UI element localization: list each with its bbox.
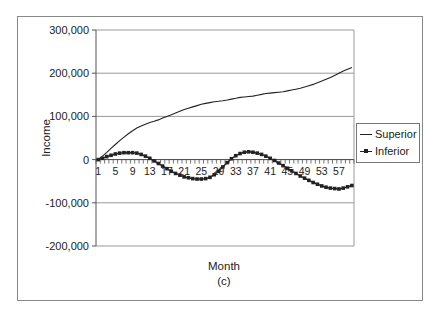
data-point-marker	[204, 177, 208, 181]
gridlines	[96, 30, 354, 246]
data-point-marker	[311, 181, 315, 185]
y-axis-title: Income	[40, 119, 52, 157]
data-point-marker	[273, 159, 277, 163]
legend-item-inferior: Inferior	[360, 143, 409, 159]
data-point-marker	[191, 177, 195, 181]
data-point-marker	[114, 152, 118, 156]
data-point-marker	[234, 154, 238, 158]
data-point-marker	[187, 176, 191, 180]
series-superior	[98, 68, 352, 160]
legend-item-superior: Superior	[360, 126, 417, 142]
legend-label: Superior	[375, 128, 417, 140]
data-point-marker	[152, 159, 156, 163]
data-point-marker	[122, 151, 126, 155]
data-point-marker	[290, 169, 294, 173]
data-point-marker	[208, 176, 212, 180]
axes	[92, 30, 354, 246]
inferior-square-marker-swatch-icon	[360, 151, 372, 152]
data-point-marker	[200, 177, 204, 181]
data-point-marker	[268, 157, 272, 161]
data-point-marker	[139, 153, 143, 157]
data-point-marker	[221, 165, 225, 169]
data-point-marker	[182, 175, 186, 179]
data-point-marker	[329, 186, 333, 190]
x-tick-label: 1	[95, 165, 101, 177]
data-point-marker	[212, 173, 216, 177]
data-point-marker	[148, 157, 152, 161]
data-point-marker	[238, 152, 242, 156]
data-point-marker	[341, 186, 345, 190]
data-point-marker	[105, 155, 109, 159]
y-tick-label: 200,000	[49, 67, 89, 79]
data-point-marker	[294, 172, 298, 176]
data-point-marker	[298, 174, 302, 178]
data-point-marker	[118, 151, 122, 155]
data-point-marker	[281, 164, 285, 168]
data-point-marker	[264, 154, 268, 158]
data-point-marker	[135, 151, 139, 155]
legend: Superior Inferior	[356, 123, 420, 163]
data-point-marker	[350, 184, 354, 188]
y-tick-label: 0	[83, 154, 89, 166]
data-point-marker	[131, 151, 135, 155]
data-point-marker	[217, 169, 221, 173]
chart-caption: (c)	[217, 275, 231, 287]
x-tick-label: 37	[247, 165, 259, 177]
data-point-marker	[230, 157, 234, 161]
data-point-marker	[165, 167, 169, 171]
x-tick-label: 9	[130, 165, 136, 177]
data-point-marker	[243, 150, 247, 154]
data-point-marker	[307, 179, 311, 183]
data-point-marker	[337, 187, 341, 191]
y-tick-label: -100,000	[46, 197, 89, 209]
data-point-marker	[109, 153, 113, 157]
x-tick-label: 25	[196, 165, 208, 177]
data-point-marker	[247, 150, 251, 154]
x-tick-label: 5	[112, 165, 118, 177]
data-point-marker	[260, 153, 264, 157]
x-tick-label: 13	[144, 165, 156, 177]
x-tick-label: 57	[333, 165, 345, 177]
data-point-marker	[174, 172, 178, 176]
y-tick-label: 300,000	[49, 24, 89, 36]
data-point-marker	[346, 185, 350, 189]
data-point-marker	[101, 157, 105, 161]
data-point-marker	[320, 184, 324, 188]
data-point-marker	[255, 151, 259, 155]
data-point-marker	[169, 169, 173, 173]
y-tick-label: -200,000	[46, 240, 89, 252]
data-point-marker	[303, 176, 307, 180]
data-point-marker	[195, 177, 199, 181]
legend-label: Inferior	[375, 145, 409, 157]
data-point-marker	[251, 150, 255, 154]
data-point-marker	[161, 164, 165, 168]
x-tick-label: 53	[316, 165, 328, 177]
superior-line-swatch-icon	[360, 134, 372, 135]
data-point-marker	[316, 182, 320, 186]
data-point-marker	[286, 166, 290, 170]
data-point-marker	[157, 162, 161, 166]
y-tick-labels: 300,000200,000100,0000-100,000-200,000	[46, 24, 89, 252]
data-point-marker	[144, 154, 148, 158]
data-point-marker	[126, 151, 130, 155]
data-point-marker	[178, 173, 182, 177]
x-axis-title: Month	[208, 260, 240, 272]
x-tick-label: 33	[230, 165, 242, 177]
data-point-marker	[324, 185, 328, 189]
data-point-marker	[225, 161, 229, 165]
x-tick-label: 41	[264, 165, 276, 177]
data-point-marker	[333, 187, 337, 191]
data-point-marker	[277, 161, 281, 165]
data-point-marker	[96, 158, 100, 162]
y-tick-label: 100,000	[49, 110, 89, 122]
